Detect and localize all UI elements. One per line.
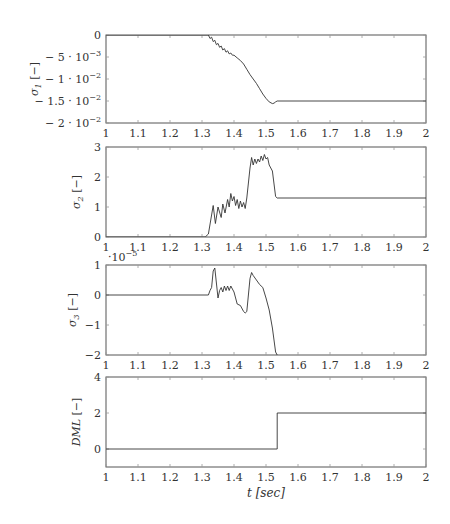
y-tick-label: −1 <box>85 319 101 332</box>
x-tick-label: 1.6 <box>289 241 307 254</box>
y-tick-label: 4 <box>94 371 101 384</box>
x-tick-label: 1.4 <box>225 127 243 140</box>
y-axis-label: σ2 [−] <box>70 175 85 209</box>
x-tick-label: 1.7 <box>321 359 339 372</box>
y-tick-label: − 5 · 10−3 <box>45 49 101 64</box>
y-tick-label: 3 <box>94 141 101 154</box>
x-tick-label: 2 <box>423 359 430 372</box>
x-tick-label: 1.3 <box>193 359 211 372</box>
sigma1-panel: 11.11.21.31.41.51.61.71.81.920− 5 · 10−3… <box>28 29 430 140</box>
y-tick-label: 1 <box>94 201 101 214</box>
x-tick-label: 1.5 <box>257 127 275 140</box>
sigma3-panel: 11.11.21.31.41.51.61.71.81.92−2−101·10−5… <box>66 249 430 372</box>
x-axis-label: t [sec] <box>247 486 285 500</box>
x-tick-label: 1.8 <box>353 359 371 372</box>
x-tick-label: 1.1 <box>129 127 147 140</box>
y-tick-label: 0 <box>94 231 101 244</box>
data-line <box>106 268 277 355</box>
x-tick-label: 1.6 <box>289 359 307 372</box>
x-tick-label: 1.7 <box>321 127 339 140</box>
y-axis-label: DML [−] <box>70 398 83 448</box>
y-tick-label: − 1 · 10−2 <box>45 71 101 86</box>
y-tick-label: 0 <box>94 443 101 456</box>
data-line <box>106 155 426 238</box>
x-tick-label: 2 <box>423 471 430 484</box>
x-tick-label: 1.3 <box>193 241 211 254</box>
x-tick-label: 1.7 <box>321 471 339 484</box>
x-tick-label: 1.4 <box>225 471 243 484</box>
axes-frame <box>106 265 426 355</box>
x-tick-label: 1.1 <box>129 359 147 372</box>
x-tick-label: 1.2 <box>161 471 179 484</box>
x-tick-label: 1.7 <box>321 241 339 254</box>
x-tick-label: 1.2 <box>161 127 179 140</box>
x-tick-label: 1.5 <box>257 471 275 484</box>
x-tick-label: 2 <box>423 127 430 140</box>
axes-frame <box>106 377 426 467</box>
y-tick-label: 0 <box>94 289 101 302</box>
x-tick-label: 1.4 <box>225 359 243 372</box>
y-tick-label: 1 <box>94 259 101 272</box>
x-tick-label: 1.3 <box>193 471 211 484</box>
axes-frame <box>106 35 426 123</box>
x-tick-label: 1.9 <box>385 359 403 372</box>
data-line <box>106 35 426 104</box>
x-tick-label: 1 <box>103 359 110 372</box>
x-tick-label: 1.5 <box>257 241 275 254</box>
x-tick-label: 1.9 <box>385 127 403 140</box>
x-tick-label: 1.8 <box>353 127 371 140</box>
x-tick-label: 1.9 <box>385 241 403 254</box>
y-axis-label: σ3 [−] <box>66 293 81 327</box>
axes-frame <box>106 147 426 237</box>
y-tick-label: − 1.5 · 10−2 <box>35 93 102 108</box>
data-line <box>106 413 426 449</box>
x-tick-label: 1.1 <box>129 471 147 484</box>
dml-panel: 11.11.21.31.41.51.61.71.81.92024DML [−]t… <box>70 371 430 500</box>
x-tick-label: 1.2 <box>161 359 179 372</box>
y-tick-label: 2 <box>94 171 101 184</box>
x-tick-label: 1.6 <box>289 471 307 484</box>
x-tick-label: 1.3 <box>193 127 211 140</box>
x-tick-label: 1.5 <box>257 359 275 372</box>
x-tick-label: 1 <box>103 127 110 140</box>
x-tick-label: 1.8 <box>353 241 371 254</box>
x-tick-label: 1.2 <box>161 241 179 254</box>
y-tick-label: − 2 · 10−2 <box>45 115 101 130</box>
y-tick-label: 0 <box>94 29 101 42</box>
y-axis-label: σ1 [−] <box>28 62 43 96</box>
figure: 11.11.21.31.41.51.61.71.81.920− 5 · 10−3… <box>0 0 450 524</box>
x-tick-label: 1.6 <box>289 127 307 140</box>
x-tick-label: 1.8 <box>353 471 371 484</box>
x-tick-label: 2 <box>423 241 430 254</box>
axis-multiplier: ·10−5 <box>108 249 137 264</box>
x-tick-label: 1.4 <box>225 241 243 254</box>
x-tick-label: 1.9 <box>385 471 403 484</box>
x-tick-label: 1 <box>103 471 110 484</box>
sigma2-panel: 11.11.21.31.41.51.61.71.81.920123σ2 [−] <box>70 141 430 254</box>
y-tick-label: 2 <box>94 407 101 420</box>
y-tick-label: −2 <box>85 349 101 362</box>
